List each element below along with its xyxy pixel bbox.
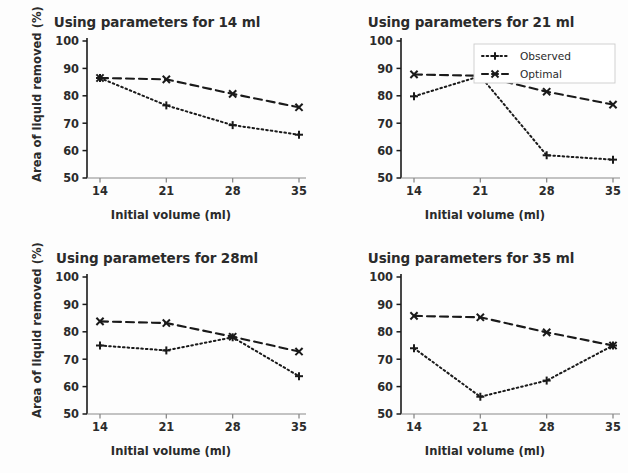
x-tick-label: 14 bbox=[92, 184, 108, 198]
x-tick-label: 28 bbox=[225, 184, 241, 198]
y-tick-label: 90 bbox=[63, 62, 79, 76]
y-tick-label: 70 bbox=[63, 117, 79, 131]
y-tick-label: 60 bbox=[63, 380, 79, 394]
series-markers-optimal bbox=[96, 74, 302, 111]
legend: ObservedOptimal bbox=[474, 44, 615, 83]
x-tick-label: 14 bbox=[92, 420, 108, 434]
plot-area-bottom-left: 506070809010014212835 bbox=[0, 236, 314, 472]
plot-area-top-right: 506070809010014212835ObservedOptimal bbox=[314, 0, 628, 236]
x-tick-label: 21 bbox=[472, 420, 488, 434]
y-tick-label: 60 bbox=[377, 144, 393, 158]
x-tick-label: 35 bbox=[291, 420, 307, 434]
y-tick-label: 70 bbox=[63, 353, 79, 367]
y-tick-label: 100 bbox=[55, 270, 79, 284]
x-tick-label: 35 bbox=[291, 184, 307, 198]
series-line-observed bbox=[414, 346, 613, 397]
y-tick-label: 100 bbox=[55, 34, 79, 48]
y-tick-label: 50 bbox=[63, 407, 79, 421]
x-tick-label: 35 bbox=[605, 420, 621, 434]
y-tick-label: 100 bbox=[369, 270, 393, 284]
series-line-observed bbox=[100, 78, 299, 135]
y-tick-label: 90 bbox=[377, 298, 393, 312]
x-tick-label: 21 bbox=[158, 184, 174, 198]
series-markers-optimal bbox=[410, 312, 616, 349]
series-markers-optimal bbox=[96, 318, 302, 355]
series-markers-observed bbox=[96, 74, 303, 139]
y-tick-label: 50 bbox=[377, 407, 393, 421]
chart-panel-top-left: Using parameters for 14 ml Area of liqui… bbox=[0, 0, 314, 236]
chart-panel-bottom-right: Using parameters for 35 ml Initial volum… bbox=[314, 236, 628, 472]
chart-panel-bottom-left: Using parameters for 28ml Area of liquid… bbox=[0, 236, 314, 472]
legend-label-optimal: Optimal bbox=[520, 68, 562, 80]
x-tick-label: 28 bbox=[539, 420, 555, 434]
series-markers-observed bbox=[410, 72, 617, 164]
x-tick-label: 14 bbox=[406, 420, 422, 434]
y-tick-label: 60 bbox=[63, 144, 79, 158]
x-tick-label: 21 bbox=[158, 420, 174, 434]
plot-area-bottom-right: 506070809010014212835 bbox=[314, 236, 628, 472]
y-tick-label: 90 bbox=[63, 298, 79, 312]
x-tick-label: 28 bbox=[225, 420, 241, 434]
chart-panel-top-right: Using parameters for 21 ml Initial volum… bbox=[314, 0, 628, 236]
y-tick-label: 50 bbox=[377, 171, 393, 185]
series-line-observed bbox=[100, 337, 299, 376]
y-tick-label: 100 bbox=[369, 34, 393, 48]
x-tick-label: 14 bbox=[406, 184, 422, 198]
x-tick-label: 21 bbox=[472, 184, 488, 198]
series-line-optimal bbox=[100, 78, 299, 107]
series-markers-observed bbox=[410, 342, 617, 401]
y-tick-label: 70 bbox=[377, 353, 393, 367]
y-tick-label: 60 bbox=[377, 380, 393, 394]
figure-canvas: Using parameters for 14 ml Area of liqui… bbox=[0, 0, 628, 473]
x-tick-label: 35 bbox=[605, 184, 621, 198]
y-tick-label: 80 bbox=[63, 89, 79, 103]
x-tick-label: 28 bbox=[539, 184, 555, 198]
y-tick-label: 50 bbox=[63, 171, 79, 185]
y-tick-label: 90 bbox=[377, 62, 393, 76]
legend-label-observed: Observed bbox=[520, 50, 571, 62]
y-tick-label: 70 bbox=[377, 117, 393, 131]
series-markers-observed bbox=[96, 333, 303, 380]
series-line-optimal bbox=[414, 316, 613, 346]
y-tick-label: 80 bbox=[63, 325, 79, 339]
y-tick-label: 80 bbox=[377, 89, 393, 103]
series-line-observed bbox=[414, 76, 613, 160]
plot-area-top-left: 506070809010014212835 bbox=[0, 0, 314, 236]
y-tick-label: 80 bbox=[377, 325, 393, 339]
